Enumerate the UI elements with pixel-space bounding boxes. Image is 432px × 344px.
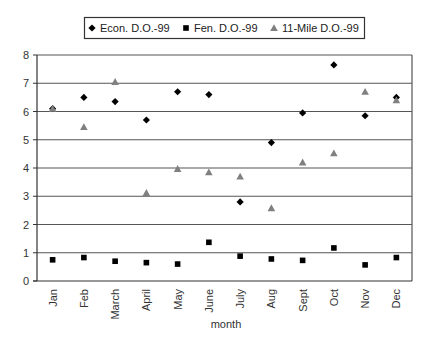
x-tick-label: July bbox=[234, 289, 246, 309]
square-marker bbox=[50, 257, 56, 263]
x-tick-label: Feb bbox=[78, 289, 90, 308]
triangle-marker bbox=[111, 78, 119, 85]
y-tick-label: 7 bbox=[23, 77, 29, 89]
y-tick-label: 8 bbox=[23, 49, 29, 61]
x-tick-label: Oct bbox=[328, 289, 340, 306]
triangle-marker bbox=[299, 159, 307, 166]
x-tick-label: Jan bbox=[47, 289, 59, 307]
y-tick-label: 4 bbox=[23, 162, 29, 174]
diamond-marker bbox=[205, 91, 212, 98]
y-tick-label: 3 bbox=[23, 190, 29, 202]
x-tick-label: Sept bbox=[297, 289, 309, 312]
square-marker bbox=[206, 239, 212, 245]
triangle-marker bbox=[361, 88, 369, 95]
legend-label: Fen. D.O.-99 bbox=[194, 22, 258, 34]
diamond-marker bbox=[299, 109, 306, 116]
triangle-marker bbox=[268, 204, 276, 211]
square-marker bbox=[81, 255, 87, 261]
y-tick-label: 1 bbox=[23, 247, 29, 259]
y-axis: 012345678 bbox=[23, 49, 37, 287]
square-marker bbox=[362, 262, 368, 268]
x-tick-label: April bbox=[140, 289, 152, 311]
gridlines bbox=[33, 55, 412, 281]
square-marker bbox=[237, 253, 243, 259]
square-marker bbox=[175, 261, 181, 267]
x-tick-label: March bbox=[109, 289, 121, 320]
square-marker bbox=[394, 255, 400, 261]
triangle-marker bbox=[80, 123, 88, 130]
triangle-marker bbox=[236, 173, 244, 180]
x-axis: JanFebMarchAprilMayJuneJulyAugSeptOctNov… bbox=[47, 289, 403, 320]
triangle-marker bbox=[143, 189, 151, 196]
diamond-marker bbox=[362, 112, 369, 119]
legend-label: 11-Mile D.O.-99 bbox=[282, 22, 359, 34]
diamond-marker bbox=[174, 88, 181, 95]
y-tick-label: 5 bbox=[23, 134, 29, 146]
diamond-marker bbox=[330, 61, 337, 68]
data-points bbox=[49, 61, 400, 267]
x-tick-label: Dec bbox=[390, 289, 402, 309]
diamond-marker bbox=[80, 94, 87, 101]
diamond-marker bbox=[112, 98, 119, 105]
triangle-marker bbox=[330, 150, 338, 157]
scatter-chart: Econ. D.O.-99Fen. D.O.-9911-Mile D.O.-99… bbox=[0, 0, 432, 344]
legend-label: Econ. D.O.-99 bbox=[100, 22, 170, 34]
diamond-marker bbox=[237, 198, 244, 205]
legend: Econ. D.O.-99Fen. D.O.-9911-Mile D.O.-99 bbox=[85, 18, 365, 39]
x-tick-label: May bbox=[172, 289, 184, 310]
square-marker bbox=[183, 25, 189, 31]
diamond-marker bbox=[143, 116, 150, 123]
triangle-marker bbox=[205, 168, 213, 175]
square-marker bbox=[112, 258, 118, 264]
square-marker bbox=[331, 245, 337, 251]
square-marker bbox=[269, 256, 275, 262]
x-tick-label: June bbox=[203, 289, 215, 313]
square-marker bbox=[300, 258, 306, 264]
x-tick-label: Nov bbox=[359, 289, 371, 309]
y-tick-label: 6 bbox=[23, 106, 29, 118]
x-tick-label: Aug bbox=[265, 289, 277, 309]
x-axis-title: month bbox=[211, 318, 242, 330]
square-marker bbox=[144, 260, 150, 266]
y-tick-label: 2 bbox=[23, 219, 29, 231]
y-tick-label: 0 bbox=[23, 275, 29, 287]
